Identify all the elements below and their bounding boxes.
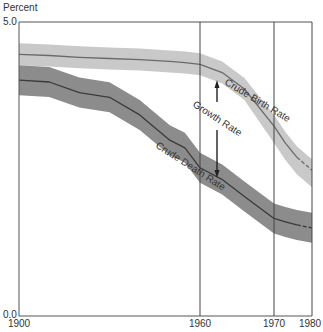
- birth-rate-band: [19, 43, 312, 187]
- population-rate-chart: Crude Birth Rate Growth Rate Crude Death…: [0, 0, 323, 332]
